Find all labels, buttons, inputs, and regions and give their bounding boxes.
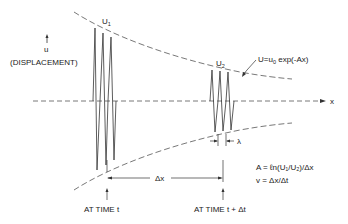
time-t-arrow-icon	[106, 188, 109, 200]
u2-label: U2	[216, 59, 225, 69]
u1-label: U1	[102, 17, 111, 27]
x-axis	[33, 99, 326, 103]
velocity-formula: v = Δx/Δt	[256, 176, 289, 185]
time-t-label: AT TIME t	[84, 205, 120, 214]
wave-1	[93, 28, 116, 170]
delta-x-label: Δx	[155, 174, 164, 183]
u-axis-label: u	[44, 45, 48, 54]
time-t-dt-arrow-icon	[222, 188, 225, 200]
delta-x-marker	[107, 160, 223, 182]
wavelength-label: λ	[237, 137, 241, 146]
envelope-equation: U=u0 exp(-Αx)	[258, 55, 309, 65]
x-axis-label: x	[330, 97, 334, 106]
u-axis-arrow-icon	[46, 34, 49, 43]
wave-attenuation-diagram: x u (DISPLACEMENT) U1 U2 U=u0 exp(-Αx)	[0, 0, 348, 224]
wavelength-marker	[210, 134, 234, 146]
displacement-label: (DISPLACEMENT)	[10, 58, 78, 67]
attenuation-formula: Α = ℓn(U₁/U₂)/Δx	[256, 163, 314, 172]
time-t-dt-label: AT TIME t + Δt	[194, 205, 247, 214]
